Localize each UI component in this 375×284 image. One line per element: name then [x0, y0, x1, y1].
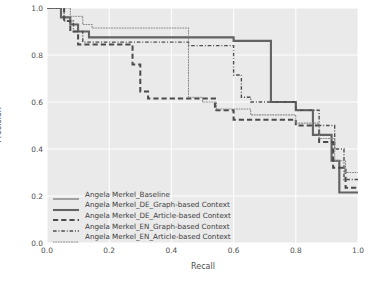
- y-tick-label: 0.6: [0, 98, 43, 107]
- y-tick-label: 0.8: [0, 51, 43, 60]
- legend-line-swatch: [53, 200, 79, 210]
- legend-item: Angela Merkel_EN_Graph-based Context: [53, 221, 231, 232]
- y-tick-label: 0.2: [0, 192, 43, 201]
- x-tick-label: 0.2: [103, 246, 115, 255]
- x-tick-label: 0.8: [290, 246, 302, 255]
- legend-item: Angela Merkel_Baseline: [53, 189, 231, 200]
- legend-line-swatch: [53, 210, 79, 220]
- y-tick-label: 0.0: [0, 239, 43, 248]
- y-axis-label: Precision: [0, 107, 3, 143]
- legend-label: Angela Merkel_Baseline: [85, 190, 170, 199]
- x-tick-label: 0.4: [166, 246, 178, 255]
- legend-item: Angela Merkel_DE_Article-based Context: [53, 210, 231, 221]
- legend-line-swatch: [53, 221, 79, 231]
- legend-line-swatch: [53, 189, 79, 199]
- legend-label: Angela Merkel_DE_Graph-based Context: [85, 200, 230, 209]
- x-tick-label: 0.6: [228, 246, 240, 255]
- x-tick-label: 1.0: [352, 246, 364, 255]
- legend-label: Angela Merkel_DE_Article-based Context: [85, 211, 231, 220]
- legend: Angela Merkel_BaselineAngela Merkel_DE_G…: [50, 186, 236, 245]
- legend-item: Angela Merkel_DE_Graph-based Context: [53, 200, 231, 211]
- series-line: [47, 8, 358, 173]
- x-tick-label: 0.0: [41, 246, 53, 255]
- y-tick-label: 0.4: [0, 145, 43, 154]
- series-line: [47, 8, 358, 180]
- legend-item: Angela Merkel_EN_Article-based Context: [53, 231, 231, 242]
- legend-line-swatch: [53, 232, 79, 242]
- precision-recall-figure: 0.00.20.40.60.81.0 0.00.20.40.60.81.0 Pr…: [0, 0, 375, 284]
- legend-label: Angela Merkel_EN_Article-based Context: [85, 232, 231, 241]
- x-axis-label: Recall: [191, 262, 215, 271]
- y-tick-label: 1.0: [0, 4, 43, 13]
- legend-label: Angela Merkel_EN_Graph-based Context: [85, 222, 230, 231]
